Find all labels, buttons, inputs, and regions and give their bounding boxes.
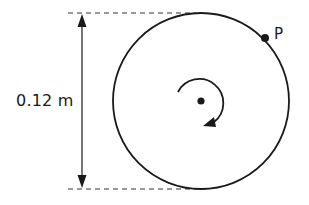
diameter-double-arrow [78,14,87,188]
arrow-up-icon [78,14,87,27]
diameter-label: 0.12 m [16,91,74,110]
point-p-label: P [274,25,283,43]
arrow-down-icon [78,175,87,188]
point-p-dot [261,34,269,42]
center-dot [197,97,204,104]
